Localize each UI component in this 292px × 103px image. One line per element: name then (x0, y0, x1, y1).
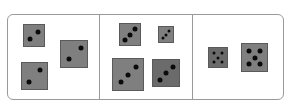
pip-dot (133, 27, 138, 32)
pip-dot (164, 71, 169, 76)
pip-dot (35, 30, 40, 35)
pip-dot (161, 36, 164, 39)
pip-dot (28, 36, 33, 41)
pip-dot (38, 68, 43, 73)
pip-dot (246, 49, 251, 54)
pip-dot (118, 80, 123, 85)
pip-dot (123, 37, 128, 42)
pip-dot (170, 65, 175, 70)
pip-dot (128, 32, 133, 37)
pip-dot (126, 72, 131, 77)
die-5-pips (241, 43, 268, 72)
pip-dot (27, 79, 32, 84)
die-2-pips (21, 62, 48, 90)
pip-dot (78, 46, 83, 51)
die-3-pips (112, 58, 144, 91)
pip-dot (157, 77, 162, 82)
pip-dot (258, 61, 263, 66)
die-3-pips (119, 23, 141, 46)
pip-dot (133, 65, 138, 70)
pip-dot (212, 52, 215, 55)
die-2-pips (60, 40, 88, 68)
pip-dot (221, 52, 224, 55)
die-3-pips (158, 26, 174, 43)
die-3-pips (152, 59, 180, 87)
panel-divider (192, 14, 193, 100)
pip-dot (246, 61, 251, 66)
pip-dot (66, 57, 71, 62)
pip-dot (217, 56, 220, 59)
die-2-pips (23, 24, 45, 47)
pip-dot (165, 33, 168, 36)
pip-dot (212, 60, 215, 63)
pip-dot (168, 30, 171, 33)
panel-divider (99, 14, 100, 100)
pip-dot (252, 55, 257, 60)
pip-dot (258, 49, 263, 54)
pip-dot (221, 60, 224, 63)
die-5-pips (208, 47, 228, 68)
